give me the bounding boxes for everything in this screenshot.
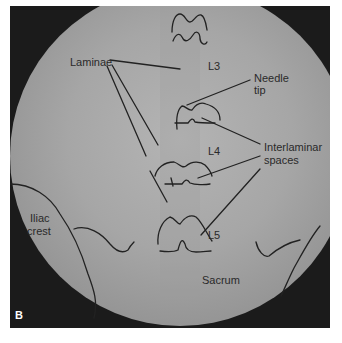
needle-tip-label-line1: Needle — [254, 72, 289, 84]
needle-tip-label-line2: tip — [254, 84, 266, 96]
xray-field — [10, 6, 330, 328]
l5-label: L5 — [208, 229, 220, 241]
iliac-crest-label-line2: crest — [27, 225, 51, 237]
interlaminar-label-line2: spaces — [264, 154, 299, 166]
laminae-label: Laminae — [70, 56, 112, 68]
sacrum-label: Sacrum — [202, 274, 240, 286]
panel-letter: B — [15, 309, 23, 321]
l4-label: L4 — [208, 145, 220, 157]
fluoroscopy-image: Laminae L3 Needle tip L4 Interlaminar sp… — [10, 6, 330, 328]
interlaminar-label-line1: Interlaminar — [264, 141, 322, 153]
iliac-crest-label-line1: Iliac — [30, 212, 50, 224]
l3-label: L3 — [208, 60, 220, 72]
